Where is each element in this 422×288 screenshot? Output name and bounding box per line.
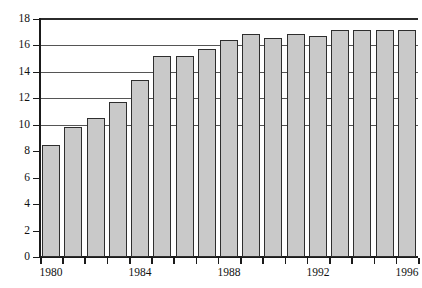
bar	[331, 30, 349, 257]
y-axis-tick-label: 18	[0, 13, 30, 25]
bar	[64, 127, 82, 257]
x-axis-tick-label: 1988	[206, 266, 252, 278]
x-axis-tick	[40, 258, 42, 264]
x-axis-tick-label: 1980	[28, 266, 74, 278]
bar-chart: 024681012141618 19801984198819921996	[0, 0, 422, 288]
x-axis-tick	[62, 258, 64, 264]
x-axis-tick	[240, 258, 242, 264]
y-axis-tick-label: 4	[0, 198, 30, 210]
y-axis-tick-label: 10	[0, 119, 30, 131]
y-axis-tick-label: 12	[0, 92, 30, 104]
bar	[353, 30, 371, 257]
bar	[309, 36, 327, 257]
bar	[287, 34, 305, 257]
x-axis-tick	[173, 258, 175, 264]
bars-container	[40, 19, 418, 257]
x-axis-tick	[262, 258, 264, 264]
y-axis-tick-label: 14	[0, 66, 30, 78]
x-axis-tick-label: 1996	[384, 266, 422, 278]
x-axis-tick	[151, 258, 153, 264]
x-axis-tick-label: 1992	[295, 266, 341, 278]
bar	[398, 30, 416, 257]
bar	[109, 102, 127, 257]
x-axis-tick	[374, 258, 376, 264]
x-axis-tick	[418, 258, 420, 264]
x-axis-tick	[107, 258, 109, 264]
bar	[264, 38, 282, 257]
y-axis-tick-label: 0	[0, 251, 30, 263]
x-axis-tick	[329, 258, 331, 264]
bar	[242, 34, 260, 257]
y-axis-tick-label: 16	[0, 39, 30, 51]
x-axis-tick	[84, 258, 86, 264]
y-axis-tick-label: 8	[0, 145, 30, 157]
bar	[198, 49, 216, 257]
y-axis-tick-label: 2	[0, 225, 30, 237]
bar	[131, 80, 149, 257]
bar	[220, 40, 238, 257]
bar	[87, 118, 105, 257]
bar	[153, 56, 171, 257]
y-axis-tick-label: 6	[0, 172, 30, 184]
x-axis-tick	[396, 258, 398, 264]
x-axis-tick-label: 1984	[117, 266, 163, 278]
x-axis-tick	[196, 258, 198, 264]
x-axis-tick	[307, 258, 309, 264]
x-axis-tick	[351, 258, 353, 264]
bar	[176, 56, 194, 257]
bar	[42, 145, 60, 257]
x-axis-tick	[218, 258, 220, 264]
x-axis-tick	[129, 258, 131, 264]
x-axis-tick	[285, 258, 287, 264]
bar	[376, 30, 394, 257]
